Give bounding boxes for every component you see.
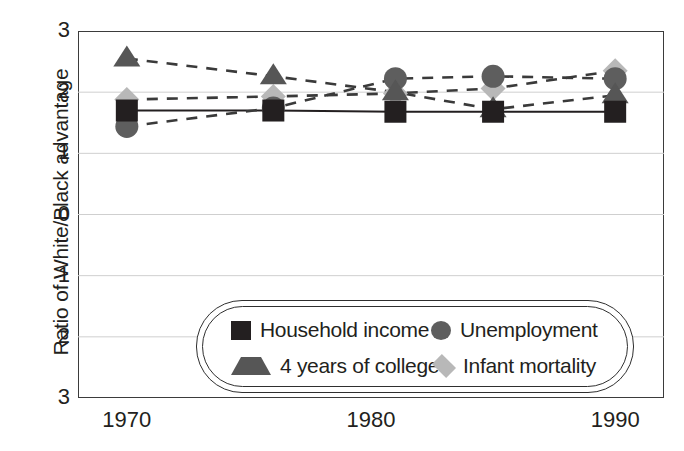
x-tick-label: 1970 bbox=[102, 409, 151, 431]
square-marker-icon bbox=[231, 321, 251, 340]
legend: Household income Unemployment 4 years of… bbox=[196, 300, 634, 393]
legend-label-household-income: Household income bbox=[260, 318, 429, 342]
circle-marker-icon bbox=[431, 321, 451, 340]
chart-figure: Ratio of White/Black advantage 3210123 1… bbox=[0, 0, 684, 451]
legend-entry-4-years-of-college: 4 years of college bbox=[231, 354, 431, 378]
legend-label-infant-mortality: Infant mortality bbox=[463, 354, 596, 378]
diamond-marker-icon bbox=[432, 354, 456, 378]
x-tick-label: 1980 bbox=[347, 409, 396, 431]
triangle-marker-icon bbox=[231, 357, 271, 375]
legend-entry-infant-mortality: Infant mortality bbox=[431, 354, 607, 378]
x-tick-label: 1990 bbox=[591, 409, 640, 431]
legend-entry-unemployment: Unemployment bbox=[431, 318, 607, 342]
legend-entries: Household income Unemployment 4 years of… bbox=[231, 312, 607, 384]
legend-entry-household-income: Household income bbox=[231, 318, 431, 342]
legend-label-unemployment: Unemployment bbox=[460, 318, 598, 342]
legend-label-4-years-of-college: 4 years of college bbox=[280, 354, 439, 378]
